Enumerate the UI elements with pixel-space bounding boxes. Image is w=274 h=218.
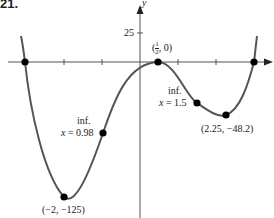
root-left-point (21, 58, 28, 65)
root-right-point (250, 58, 257, 65)
inflection-right-label-1: inf. (168, 86, 182, 96)
inflection-left-label-1: inf. (77, 116, 91, 126)
inflection-left-point (99, 129, 106, 136)
problem-number: 21. (0, 0, 18, 10)
min-left-point (60, 193, 67, 200)
min-left-label: (−2, −125) (42, 205, 85, 215)
function-graph (0, 0, 274, 218)
y-axis-label: y (142, 0, 146, 8)
curve (21, 36, 257, 199)
inflection-right-point (193, 99, 200, 106)
inflection-right-label-2: x = 1.5 (159, 98, 187, 108)
x-axis-arrow-icon (264, 59, 273, 66)
min-right-label: (2.25, −48.2) (201, 124, 253, 134)
min-right-point (222, 111, 229, 118)
y-tick-label-25: 25 (124, 28, 134, 38)
max-point (154, 58, 161, 65)
inflection-left-label-2: x = 0.98 (61, 128, 94, 138)
max-label-rest: , 0) (159, 42, 172, 53)
max-point-label: (12, 0) (152, 41, 172, 56)
